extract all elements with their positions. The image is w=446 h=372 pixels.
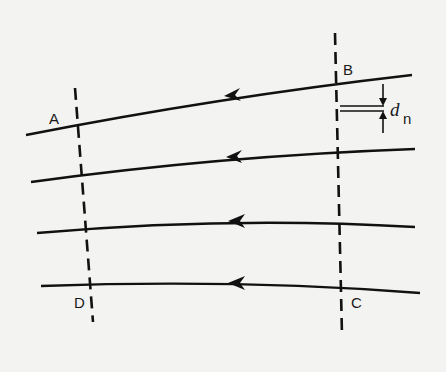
flow-line-1 [26,75,412,135]
arrow-down-icon [379,98,387,106]
diagram-svg [0,0,446,372]
arrowhead-icon [228,214,245,228]
diagram-canvas: A B C D d n [0,0,446,372]
point-label-b: B [343,62,353,77]
spacing-subscript: n [403,111,411,126]
arrow-up-icon [379,111,387,119]
flow-line-4 [41,276,420,293]
point-label-d: D [74,295,85,310]
spacing-symbol: d [390,100,400,119]
dashed-line-right [335,33,342,335]
point-label-a: A [49,111,59,126]
spacing-indicator [340,84,387,133]
flow-line-3 [37,214,415,233]
flow-line-2 [31,149,415,182]
arrowhead-icon [228,276,245,290]
point-label-c: C [351,295,362,310]
